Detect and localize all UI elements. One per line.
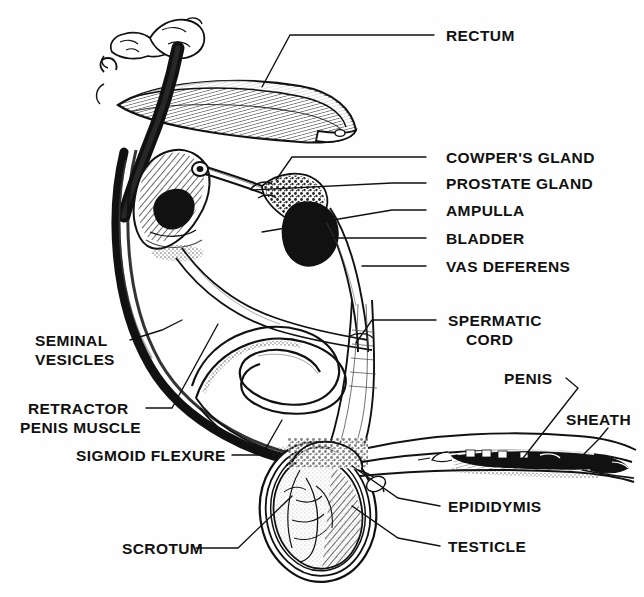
leader-rectum <box>262 35 434 87</box>
label-sheath: SHEATH <box>566 410 631 429</box>
label-spermatic-cord-line2: CORD <box>466 330 513 349</box>
label-scrotum: SCROTUM <box>122 539 203 558</box>
label-prostate-gland: PROSTATE GLAND <box>446 174 593 193</box>
label-penis: PENIS <box>504 369 553 388</box>
label-cowpers-gland: COWPER'S GLAND <box>446 148 595 167</box>
label-vas-deferens: VAS DEFERENS <box>446 257 570 276</box>
diagram-canvas: RECTUM COWPER'S GLAND PROSTATE GLAND AMP… <box>0 0 644 597</box>
label-epididymis: EPIDIDYMIS <box>448 497 542 516</box>
vertebrae-group <box>102 18 204 68</box>
leader-retractor <box>146 324 218 408</box>
label-seminal-vesicles-line2: VESICLES <box>35 350 115 369</box>
label-bladder: BLADDER <box>446 229 525 248</box>
label-testicle: TESTICLE <box>448 537 526 556</box>
label-rectum: RECTUM <box>446 26 515 45</box>
label-ampulla: AMPULLA <box>446 201 525 220</box>
label-retractor-penis-muscle-line2: PENIS MUSCLE <box>20 418 141 437</box>
anatomy-illustration <box>0 0 644 597</box>
label-retractor-penis-muscle-line1: RETRACTOR <box>28 399 129 418</box>
label-spermatic-cord-line1: SPERMATIC <box>448 311 542 330</box>
label-seminal-vesicles-line1: SEMINAL <box>35 331 108 350</box>
rectum-organ <box>97 58 370 150</box>
label-sigmoid-flexure: SIGMOID FLEXURE <box>76 446 226 465</box>
